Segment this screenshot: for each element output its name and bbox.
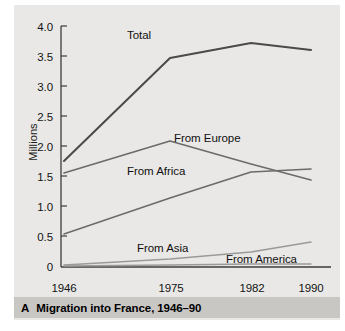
chart-area: Millions 4.0 3.5 3.0 2.5 2.0 1.5 1.0 0.5… (14, 5, 340, 293)
series-label-from-africa: From Africa (127, 165, 185, 177)
series-line-from-africa (64, 169, 311, 234)
figure-caption-text: Migration into France, 1946–90 (36, 302, 201, 314)
series-label-from-europe: From Europe (174, 132, 241, 144)
series-label-from-america: From America (226, 253, 297, 265)
figure-caption-bar: A Migration into France, 1946–90 (14, 297, 340, 318)
y-axis-ticks (61, 26, 67, 236)
series-label-total: Total (127, 29, 151, 41)
figure-container: Millions 4.0 3.5 3.0 2.5 2.0 1.5 1.0 0.5… (0, 0, 345, 331)
series-label-from-asia: From Asia (137, 242, 188, 254)
figure-label-letter: A (21, 302, 29, 314)
series-line-from-europe (64, 141, 311, 180)
